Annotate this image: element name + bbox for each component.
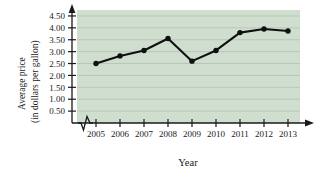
x-axis-title: Year (178, 157, 198, 168)
data-point-marker (93, 61, 98, 66)
y-axis-tick-label: 4.00 (49, 23, 65, 33)
y-axis-tick-label: 1.00 (49, 94, 65, 104)
y-axis-tick-label: 0.50 (49, 106, 65, 116)
y-axis-tick-label: 4.50 (49, 11, 65, 21)
line-chart: 0.501.001.502.002.503.003.504.004.50 200… (0, 0, 320, 177)
y-axis-title: Average price (in dollars per gallon) (17, 40, 41, 123)
x-axis-tick-label: 2008 (159, 129, 178, 139)
y-axis-tick-label: 3.50 (49, 35, 65, 45)
x-axis-tick-label: 2009 (183, 129, 202, 139)
y-axis-tick-label: 2.50 (49, 59, 65, 69)
chart-figure: 0.501.001.502.002.503.003.504.004.50 200… (0, 0, 320, 177)
data-point-marker (261, 26, 266, 31)
y-axis-tick-label: 3.00 (49, 47, 65, 57)
data-point-marker (213, 48, 218, 53)
x-axis-tick-label: 2013 (279, 129, 298, 139)
x-axis-tick-label: 2010 (207, 129, 226, 139)
data-point-marker (117, 53, 122, 58)
x-axis-tick-labels: 200520062007200820092010201120122013 (87, 129, 298, 139)
data-point-marker (141, 48, 146, 53)
data-point-marker (237, 30, 242, 35)
y-axis-title-line2: (in dollars per gallon) (30, 40, 41, 123)
y-axis-tick-labels: 0.501.001.502.002.503.003.504.004.50 (49, 11, 65, 116)
y-axis-tick-label: 2.00 (49, 71, 65, 81)
data-point-marker (285, 28, 290, 33)
plot-background (77, 10, 300, 123)
x-axis-tick-label: 2005 (87, 129, 106, 139)
x-axis-tick-label: 2011 (231, 129, 249, 139)
y-axis-tick-label: 1.50 (49, 83, 65, 93)
x-axis-tick-label: 2006 (111, 129, 130, 139)
x-axis-tick-label: 2007 (135, 129, 154, 139)
data-point-marker (189, 58, 194, 63)
y-axis-title-line1: Average price (17, 57, 27, 110)
data-point-marker (165, 36, 170, 41)
x-axis-tick-label: 2012 (255, 129, 273, 139)
